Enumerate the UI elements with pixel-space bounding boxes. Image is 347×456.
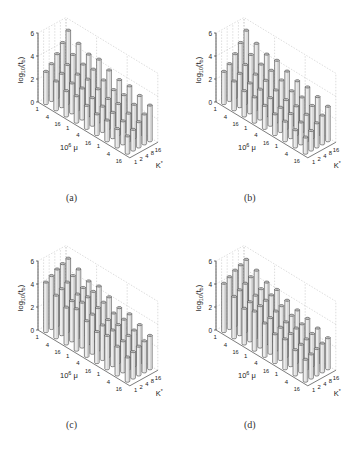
plot-area: 0246log10(tb)141614161416106 μ124816K* bbox=[194, 246, 341, 399]
bar bbox=[258, 88, 263, 120]
bars bbox=[222, 29, 331, 154]
caption-d: (d) bbox=[244, 419, 256, 430]
bar bbox=[54, 80, 59, 111]
k-tick-label: 1 bbox=[312, 387, 315, 393]
bar bbox=[131, 128, 136, 151]
bar bbox=[283, 338, 288, 370]
bars bbox=[44, 29, 153, 154]
y-axis: 0246log10(tb) bbox=[16, 30, 38, 106]
bar bbox=[252, 310, 257, 351]
bar bbox=[59, 288, 64, 336]
bar bbox=[309, 353, 314, 379]
k-tick-label: 16 bbox=[155, 375, 161, 381]
bar bbox=[299, 343, 304, 373]
bar bbox=[248, 301, 253, 342]
bar bbox=[100, 105, 105, 133]
y-tick-label: 2 bbox=[208, 76, 212, 83]
bar bbox=[54, 294, 59, 339]
y-tick-label: 4 bbox=[30, 53, 34, 60]
bar bbox=[148, 104, 153, 142]
bar bbox=[326, 105, 331, 142]
plot-area: 0246log10(tb)141614161416106 μ124816K* bbox=[194, 18, 341, 171]
bar bbox=[232, 80, 237, 111]
y-tick-label: 0 bbox=[30, 99, 34, 106]
bars bbox=[222, 258, 331, 382]
mu-tick-label: 1 bbox=[244, 125, 248, 131]
y-axis-label: log10(tb) bbox=[194, 56, 204, 83]
mu-tick-label: 1 bbox=[97, 143, 101, 149]
plot-area: 0246log10(tb)141614161416106 μ124816K* bbox=[16, 246, 163, 399]
mu-tick-label: 4 bbox=[254, 132, 258, 138]
mu-tick-label: 16 bbox=[85, 140, 91, 146]
mu-axis-label: 106 μ bbox=[238, 370, 256, 380]
mu-tick-label: 1 bbox=[66, 125, 70, 131]
caption-b: (b) bbox=[244, 192, 256, 203]
mu-tick-label: 4 bbox=[285, 151, 289, 157]
y-tick-label: 6 bbox=[208, 30, 212, 37]
bar bbox=[227, 63, 232, 102]
bar3d-chart-c: 0246log10(tb)141614161416106 μ124816K* bbox=[0, 228, 175, 418]
bar bbox=[320, 114, 325, 145]
k-tick-label: 8 bbox=[151, 378, 154, 384]
mu-tick-label: 16 bbox=[116, 386, 122, 392]
bars bbox=[44, 257, 153, 382]
bar bbox=[105, 119, 110, 142]
mu-tick-label: 4 bbox=[224, 114, 228, 120]
mu-tick-label: 4 bbox=[254, 360, 258, 366]
bar bbox=[84, 104, 89, 129]
bar bbox=[105, 334, 110, 370]
mu-tick-label: 16 bbox=[54, 121, 60, 127]
bar bbox=[136, 121, 141, 149]
bar bbox=[288, 332, 293, 366]
k-axis: 124816K* bbox=[312, 147, 341, 170]
bar bbox=[303, 136, 308, 154]
y-tick-label: 0 bbox=[208, 99, 212, 106]
bar bbox=[262, 104, 267, 129]
bar bbox=[237, 289, 242, 336]
y-tick-label: 4 bbox=[30, 281, 34, 288]
bar bbox=[262, 322, 267, 358]
bar bbox=[142, 113, 147, 145]
bar bbox=[273, 333, 278, 364]
k-tick-label: 4 bbox=[323, 153, 327, 159]
bar bbox=[268, 317, 273, 355]
mu-tick-label: 1 bbox=[35, 106, 39, 112]
caption-c: (c) bbox=[66, 419, 77, 430]
y-tick-label: 6 bbox=[30, 258, 34, 265]
mu-axis-label: 106 μ bbox=[60, 370, 78, 380]
mu-tick-label: 1 bbox=[35, 334, 39, 340]
y-tick-label: 4 bbox=[208, 281, 212, 288]
bar bbox=[125, 135, 130, 154]
bar bbox=[268, 97, 273, 127]
bar bbox=[110, 111, 115, 138]
bar bbox=[222, 282, 227, 333]
mu-axis-label: 106 μ bbox=[238, 142, 256, 152]
bar bbox=[142, 340, 147, 373]
k-tick-label: 16 bbox=[333, 147, 339, 153]
y-tick-label: 6 bbox=[208, 258, 212, 265]
mu-tick-label: 1 bbox=[213, 334, 217, 340]
bar bbox=[44, 70, 49, 104]
bar bbox=[242, 90, 247, 118]
k-tick-label: 16 bbox=[333, 375, 339, 381]
mu-tick-label: 4 bbox=[76, 132, 80, 138]
y-tick-label: 2 bbox=[208, 304, 212, 311]
bar bbox=[80, 301, 85, 348]
bar bbox=[320, 342, 325, 373]
mu-tick-label: 1 bbox=[244, 353, 248, 359]
k-tick-label: 1 bbox=[134, 159, 137, 165]
caption-a: (a) bbox=[66, 192, 77, 203]
mu-tick-label: 4 bbox=[285, 379, 289, 385]
bar bbox=[80, 87, 85, 120]
mu-tick-label: 16 bbox=[294, 386, 300, 392]
bar bbox=[136, 345, 141, 376]
mu-tick-label: 1 bbox=[97, 371, 101, 377]
bar bbox=[273, 113, 278, 136]
k-tick-label: 8 bbox=[329, 378, 332, 384]
mu-tick-label: 16 bbox=[232, 121, 238, 127]
mu-tick-label: 4 bbox=[224, 342, 228, 348]
k-tick-label: 1 bbox=[134, 387, 137, 393]
panel-d: 0246log10(tb)141614161416106 μ124816K* (… bbox=[178, 228, 347, 454]
panel-c: 0246log10(tb)141614161416106 μ124816K* (… bbox=[0, 228, 175, 454]
bar bbox=[314, 122, 319, 148]
